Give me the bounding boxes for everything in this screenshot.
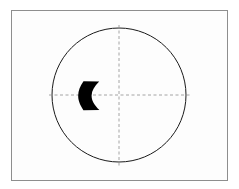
drawing-border bbox=[12, 11, 228, 181]
figure-svg bbox=[0, 0, 239, 189]
drawing-canvas bbox=[0, 0, 239, 189]
